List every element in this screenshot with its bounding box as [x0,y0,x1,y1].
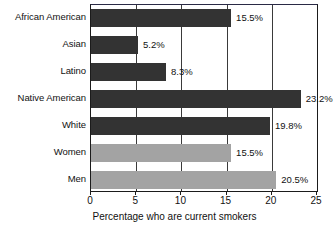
bar-value-label: 20.5% [281,174,308,186]
x-tick-label: 0 [87,195,93,207]
bar-row: 23.2% [91,90,319,108]
category-label-women: Women [0,147,86,157]
x-tick-label: 10 [175,195,186,207]
x-tick-label: 20 [265,195,276,207]
bar-value-label: 15.5% [236,147,263,159]
bar-chart: African AmericanAsianLatinoNative Americ… [0,0,333,230]
category-axis: African AmericanAsianLatinoNative Americ… [0,4,86,192]
bar-asian [91,36,138,54]
category-label-white: White [0,120,86,130]
category-label-asian: Asian [0,39,86,49]
bar-men [91,171,276,189]
bar-row: 15.5% [91,9,319,27]
bar-value-label: 8.3% [171,66,193,78]
bar-latino [91,63,166,81]
bar-row: 20.5% [91,171,319,189]
bar-white [91,117,270,135]
bar-value-label: 19.8% [275,120,302,132]
plot-area: 15.5%5.2%8.3%23.2%19.8%15.5%20.5% [90,4,318,192]
bar-row: 19.8% [91,117,319,135]
x-tick-label: 25 [310,195,321,207]
category-label-latino: Latino [0,66,86,76]
x-axis-title: Percentage who are current smokers [0,211,333,223]
category-label-men: Men [0,174,86,184]
bar-value-label: 15.5% [236,12,263,24]
bar-native-american [91,90,301,108]
x-axis: 0510152025 [90,192,318,208]
bar-row: 15.5% [91,144,319,162]
plot-inner: 15.5%5.2%8.3%23.2%19.8%15.5%20.5% [91,5,317,191]
x-tick-label: 5 [132,195,138,207]
category-label-african-american: African American [0,12,86,22]
bar-row: 5.2% [91,36,319,54]
x-tick-label: 15 [220,195,231,207]
bar-value-label: 23.2% [306,93,333,105]
bar-value-label: 5.2% [143,39,165,51]
bar-women [91,144,231,162]
category-label-native-american: Native American [0,93,86,103]
bar-row: 8.3% [91,63,319,81]
bar-african-american [91,9,231,27]
